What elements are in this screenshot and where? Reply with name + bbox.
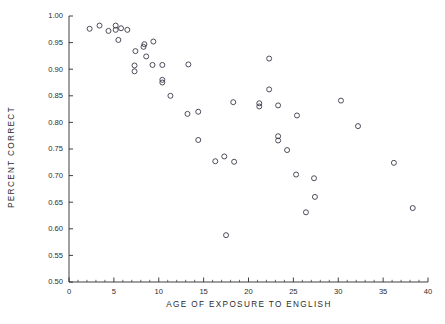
data-point bbox=[391, 160, 396, 165]
data-point bbox=[160, 62, 165, 67]
y-tick-label: 0.55 bbox=[29, 251, 63, 260]
data-point bbox=[276, 103, 281, 108]
data-point bbox=[231, 100, 236, 105]
data-point bbox=[168, 93, 173, 98]
data-point bbox=[312, 176, 317, 181]
y-tick-label: 0.95 bbox=[29, 38, 63, 47]
data-point bbox=[106, 28, 111, 33]
y-tick-label: 0.60 bbox=[29, 224, 63, 233]
x-tick-label: 5 bbox=[101, 287, 127, 296]
data-point bbox=[125, 27, 130, 32]
data-point bbox=[87, 26, 92, 31]
y-tick-label: 0.90 bbox=[29, 65, 63, 74]
data-point bbox=[150, 62, 155, 67]
data-point bbox=[294, 113, 299, 118]
data-point bbox=[294, 172, 299, 177]
data-point bbox=[186, 62, 191, 67]
y-axis-title: PERCENT CORRECT bbox=[0, 0, 24, 324]
x-tick-label: 20 bbox=[236, 287, 262, 296]
scatter-plot-figure: 0.500.550.600.650.700.750.800.850.900.95… bbox=[0, 0, 445, 324]
data-point bbox=[410, 206, 415, 211]
data-point bbox=[116, 37, 121, 42]
data-point bbox=[222, 154, 227, 159]
data-point bbox=[267, 87, 272, 92]
data-point bbox=[97, 23, 102, 28]
y-tick-label: 0.75 bbox=[29, 144, 63, 153]
y-tick-label: 0.70 bbox=[29, 171, 63, 180]
y-tick-label: 0.65 bbox=[29, 198, 63, 207]
x-tick-label: 35 bbox=[370, 287, 396, 296]
data-point bbox=[312, 194, 317, 199]
x-tick-label: 0 bbox=[56, 287, 82, 296]
x-axis-title: AGE OF EXPOSURE TO ENGLISH bbox=[69, 300, 429, 309]
axes bbox=[69, 16, 428, 282]
y-tick-label: 0.85 bbox=[29, 91, 63, 100]
x-tick-label: 25 bbox=[280, 287, 306, 296]
data-point bbox=[303, 210, 308, 215]
y-axis-title-container: PERCENT CORRECT bbox=[0, 0, 26, 324]
data-point bbox=[133, 49, 138, 54]
data-point bbox=[267, 56, 272, 61]
x-tick-label: 30 bbox=[325, 287, 351, 296]
y-tick-label: 0.80 bbox=[29, 118, 63, 127]
data-point bbox=[151, 39, 156, 44]
x-tick-label: 40 bbox=[415, 287, 441, 296]
data-point bbox=[132, 69, 137, 74]
data-point bbox=[144, 54, 149, 59]
data-point bbox=[196, 109, 201, 114]
data-point bbox=[196, 137, 201, 142]
x-tick-label: 10 bbox=[146, 287, 172, 296]
data-point bbox=[213, 159, 218, 164]
data-point bbox=[224, 233, 229, 238]
x-tick-label: 15 bbox=[191, 287, 217, 296]
y-tick-label: 1.00 bbox=[29, 11, 63, 20]
data-point bbox=[119, 26, 124, 31]
data-point bbox=[185, 111, 190, 116]
data-points bbox=[87, 23, 415, 238]
data-point bbox=[132, 63, 137, 68]
y-tick-label: 0.50 bbox=[29, 277, 63, 286]
data-point bbox=[232, 159, 237, 164]
data-point bbox=[285, 148, 290, 153]
data-point bbox=[356, 124, 361, 129]
data-point bbox=[257, 104, 262, 109]
plot-canvas bbox=[0, 0, 445, 324]
data-point bbox=[338, 98, 343, 103]
